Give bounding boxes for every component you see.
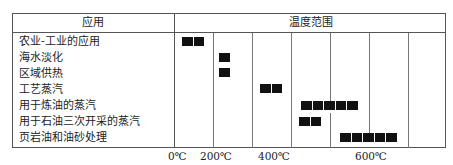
axis-label-400: 400℃	[258, 150, 290, 162]
row-label: 工艺蒸汽	[19, 82, 63, 97]
axis-label-600: 600℃	[355, 150, 387, 162]
axis-label-200: 200℃	[200, 150, 232, 162]
temperature-block	[260, 84, 282, 93]
axis-label-0: 0℃	[168, 150, 186, 162]
temperature-block	[219, 68, 230, 77]
row-label: 区域供热	[19, 66, 63, 81]
row-label: 用于炼油的蒸汽	[19, 98, 96, 113]
row-label: 农业-工业的应用	[19, 34, 100, 49]
temperature-block	[219, 53, 230, 62]
gridline	[408, 33, 409, 148]
gridline	[252, 33, 253, 148]
gridline	[330, 113, 331, 148]
gridline	[330, 33, 331, 104]
gridline	[213, 33, 214, 148]
row-label: 用于石油三次开采的蒸汽	[19, 114, 140, 129]
temperature-block	[340, 133, 397, 142]
header-application: 应用	[12, 14, 174, 32]
temperature-block	[299, 117, 321, 126]
gridline	[291, 33, 292, 148]
temperature-block	[301, 101, 358, 110]
gridline	[369, 33, 370, 139]
column-divider	[174, 13, 175, 148]
header-divider	[12, 32, 446, 33]
header-temperature-range: 温度范围	[175, 14, 446, 32]
row-label: 页岩油和油砂处理	[19, 130, 107, 145]
row-label: 海水淡化	[19, 50, 63, 65]
temperature-block	[182, 37, 204, 46]
